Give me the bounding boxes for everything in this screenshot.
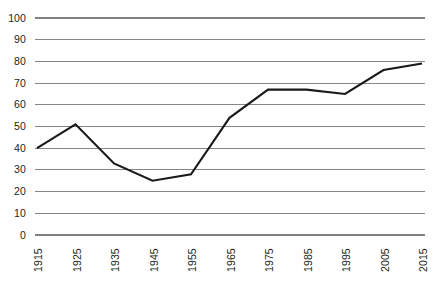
data-series <box>37 64 422 181</box>
x-axis-tick-label: 1935 <box>110 248 121 272</box>
x-axis-tick-label: 1985 <box>303 248 314 272</box>
x-axis-tick-label: 1945 <box>149 248 160 272</box>
y-axis-tick-label: 10 <box>0 208 26 219</box>
x-axis-tick-label: 1925 <box>72 248 83 272</box>
x-axis-tick-label: 2005 <box>380 248 391 272</box>
y-axis-tick-label: 100 <box>0 13 26 24</box>
y-axis-tick-label: 0 <box>0 230 26 241</box>
y-axis-tick-label: 20 <box>0 186 26 197</box>
y-axis-tick-label: 70 <box>0 78 26 89</box>
x-axis-tick-label: 1915 <box>33 248 44 272</box>
y-axis-tick-label: 30 <box>0 164 26 175</box>
x-axis-tick-label: 2015 <box>418 248 429 272</box>
x-axis-tick-label: 1995 <box>341 248 352 272</box>
gridlines <box>35 18 426 235</box>
chart-canvas <box>0 0 441 281</box>
line-chart: 0102030405060708090100 19151925193519451… <box>0 0 441 281</box>
y-axis-tick-label: 40 <box>0 143 26 154</box>
x-axis-tick-label: 1955 <box>187 248 198 272</box>
y-axis-tick-label: 50 <box>0 121 26 132</box>
y-axis-tick-label: 80 <box>0 56 26 67</box>
y-axis-tick-label: 90 <box>0 34 26 45</box>
x-axis-tick-label: 1965 <box>226 248 237 272</box>
x-axis-tick-label: 1975 <box>264 248 275 272</box>
y-axis-tick-label: 60 <box>0 99 26 110</box>
series-line <box>37 64 422 181</box>
